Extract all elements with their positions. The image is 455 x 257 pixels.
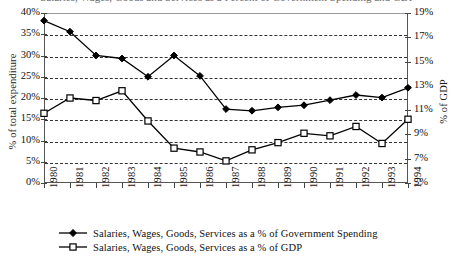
x-axis-tickmark <box>70 183 71 188</box>
y-axis-left-tickmark <box>41 13 47 14</box>
x-axis-tickmark <box>382 183 383 188</box>
y-axis-right-tick-label: 11% <box>414 104 433 115</box>
y-axis-right-tickmark <box>405 134 411 135</box>
y-axis-right-tickmark <box>405 159 411 160</box>
x-axis-tick-label: 1989 <box>282 166 293 188</box>
x-axis-tickmark <box>200 183 201 188</box>
x-axis-tick-label: 1987 <box>230 166 241 188</box>
plot-area <box>44 13 408 183</box>
y-axis-right-tick-label: 9% <box>414 128 428 139</box>
x-axis-tickmark <box>148 183 149 188</box>
x-axis-tickmark <box>278 183 279 188</box>
y-axis-left-tickmark <box>41 162 47 163</box>
x-axis-tick-label: 1981 <box>74 166 85 188</box>
legend-item[interactable]: Salaries, Wages, Goods, Services as a % … <box>58 226 378 240</box>
x-axis-tick-label: 1991 <box>334 166 345 188</box>
x-axis-tickmark <box>44 183 45 188</box>
gridline <box>45 57 407 58</box>
y-axis-left-tickmark <box>41 119 47 120</box>
x-axis-tickmark <box>252 183 253 188</box>
legend-item[interactable]: Salaries, Wages, Goods, Services as a % … <box>58 240 378 254</box>
y-axis-right-tickmark <box>405 110 411 111</box>
y-axis-left-tickmark <box>41 77 47 78</box>
y-axis-left-tick-label: 15% <box>21 113 40 124</box>
x-axis-tickmark <box>174 183 175 188</box>
x-axis-tick-label: 1990 <box>308 166 319 188</box>
x-axis-tick-label: 1980 <box>48 166 59 188</box>
open-square-marker <box>58 241 88 253</box>
y-axis-right-tick-label: 7% <box>414 153 428 164</box>
x-axis-tick-label: 1984 <box>152 166 163 188</box>
y-axis-right-tickmark <box>405 37 411 38</box>
y-axis-right-tick-label: 15% <box>414 56 433 67</box>
y-axis-left-tick-label: 20% <box>21 92 40 103</box>
x-axis-tick-label: 1988 <box>256 166 267 188</box>
y-axis-left-tick-label: 25% <box>21 71 40 82</box>
gridline <box>45 163 407 164</box>
y-axis-left-tick-label: 5% <box>26 156 40 167</box>
x-axis-tickmark <box>408 183 409 188</box>
y-axis-right-tickmark <box>405 13 411 14</box>
y-axis-right-tickmark <box>405 62 411 63</box>
y-axis-left-tick-label: 30% <box>21 50 40 61</box>
x-axis-tick-label: 1982 <box>100 166 111 188</box>
filled-diamond-marker <box>58 227 88 239</box>
chart-title-cropped: Salaries, Wages, Goods and Services as a… <box>0 0 455 3</box>
y-axis-right-tick-label: 13% <box>414 80 433 91</box>
x-axis-tickmark <box>356 183 357 188</box>
y-axis-right-title: % of GDP <box>438 42 449 162</box>
x-axis-tick-label: 1994 <box>412 166 423 188</box>
y-axis-right-tick-label: 19% <box>414 7 433 18</box>
y-axis-left-tickmark <box>41 98 47 99</box>
y-axis-left-tick-label: 35% <box>21 28 40 39</box>
gridline <box>45 120 407 121</box>
x-axis-tickmark <box>122 183 123 188</box>
gridline <box>45 99 407 100</box>
x-axis-tick-label: 1993 <box>386 166 397 188</box>
legend-item-label: Salaries, Wages, Goods, Services as a % … <box>93 228 378 239</box>
x-axis-tick-label: 1992 <box>360 166 371 188</box>
legend-item-label: Salaries, Wages, Goods, Services as a % … <box>93 242 302 253</box>
gridline <box>45 35 407 36</box>
y-axis-left-tick-label: 0% <box>26 177 40 188</box>
x-axis-tick-label: 1985 <box>178 166 189 188</box>
chart-legend: Salaries, Wages, Goods, Services as a % … <box>58 226 378 254</box>
y-axis-left-tick-label: 10% <box>21 135 40 146</box>
y-axis-left-title: % of total expenditure <box>7 42 18 162</box>
gridline <box>45 142 407 143</box>
x-axis-tick-label: 1983 <box>126 166 137 188</box>
y-axis-right-tick-label: 17% <box>414 31 433 42</box>
x-axis-tick-label: 1986 <box>204 166 215 188</box>
x-axis-tickmark <box>96 183 97 188</box>
x-axis-tickmark <box>330 183 331 188</box>
x-axis-tickmark <box>226 183 227 188</box>
x-axis-tickmark <box>304 183 305 188</box>
gridline <box>45 78 407 79</box>
y-axis-left-tickmark <box>41 141 47 142</box>
chart-page: Salaries, Wages, Goods and Services as a… <box>0 0 455 257</box>
y-axis-left-tickmark <box>41 56 47 57</box>
y-axis-left-tickmark <box>41 34 47 35</box>
y-axis-right-tickmark <box>405 86 411 87</box>
y-axis-left-tick-label: 40% <box>21 7 40 18</box>
